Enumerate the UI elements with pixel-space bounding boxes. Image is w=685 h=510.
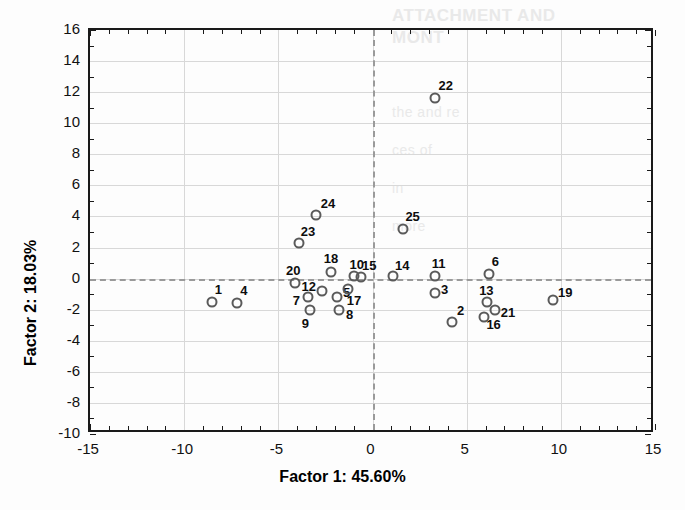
y-axis-label: Factor 2: 18.03% [22,240,40,366]
data-point-marker [397,223,408,234]
data-point-label: 23 [301,223,315,238]
x-axis-tick [90,424,91,430]
x-axis-tick-top [203,30,204,34]
gridline-horizontal [90,61,651,62]
y-axis-tick-right [647,294,651,295]
y-axis-tick [90,77,94,78]
x-axis-tick [486,426,487,430]
gridline-vertical [561,30,562,430]
data-point-label: 14 [395,257,409,272]
data-point-marker [326,267,337,278]
y-axis-tick [90,356,94,357]
gridline-vertical [467,30,468,430]
x-axis-tick-top [636,30,637,34]
x-axis-tick-top [580,30,581,34]
x-axis-tick [599,426,600,430]
plot-area: 1234567891011121314151617181920212223242… [88,28,653,432]
y-axis-tick [90,46,94,47]
data-point-label: 15 [362,258,376,273]
x-axis-tick-top [410,30,411,34]
x-axis-tick [410,426,411,430]
y-axis-tick-right [647,170,651,171]
gridline-horizontal [90,403,651,404]
x-axis-tick-top [260,30,261,34]
data-point-marker [489,304,500,315]
zero-line-vertical [373,30,375,430]
x-axis-tick-top [241,30,242,34]
y-axis-tick [90,201,94,202]
y-axis-tick-right [647,77,651,78]
data-point-marker [446,317,457,328]
x-axis-tick-top [316,30,317,34]
data-point-marker [290,278,301,289]
x-axis-tick-top [429,30,430,34]
data-point-label: 1 [215,281,222,296]
x-axis-tick [655,424,656,430]
gridline-horizontal [90,310,651,311]
gridline-horizontal [90,341,651,342]
zero-line-horizontal [90,279,651,281]
data-point-label: 11 [432,255,446,270]
gridline-horizontal [90,154,651,155]
x-axis-tick-top [222,30,223,34]
x-axis-tick-top [335,30,336,34]
y-tick-label: 8 [72,144,80,161]
x-axis-tick-top [448,30,449,34]
x-axis-tick [636,426,637,430]
data-point-label: 7 [293,293,300,308]
y-axis-tick [90,387,94,388]
data-point-label: 25 [405,208,419,223]
y-tick-label: 0 [72,268,80,285]
y-tick-label: 2 [72,237,80,254]
y-axis-tick [90,139,94,140]
x-axis-tick [203,426,204,430]
data-point-marker [305,304,316,315]
x-axis-label: Factor 1: 45.60% [0,468,685,486]
gridline-horizontal [90,123,651,124]
x-tick-label: -10 [171,440,193,457]
data-point-marker [311,209,322,220]
scatter-plot-figure: ATTACHMENT AND MONT the and re ces of in… [0,0,685,510]
y-tick-label: -4 [67,330,80,347]
x-axis-tick [391,426,392,430]
data-point-label: 17 [347,293,361,308]
y-tick-label: 10 [63,113,80,130]
x-tick-label: -15 [77,440,99,457]
data-point-marker [294,237,305,248]
y-tick-label: 4 [72,206,80,223]
y-tick-label: 14 [63,51,80,68]
x-tick-label: 15 [645,440,662,457]
gridline-horizontal [90,248,651,249]
y-axis-tick-right [647,387,651,388]
x-axis-tick [504,426,505,430]
x-axis-tick-top [599,30,600,34]
y-axis-tick-right [645,434,651,435]
y-tick-label: 16 [63,20,80,37]
x-axis-tick [297,426,298,430]
x-axis-tick-top [617,30,618,34]
x-tick-label: 0 [366,440,374,457]
gridline-horizontal [90,185,651,186]
y-axis-tick [90,108,94,109]
y-axis-tick [90,418,94,419]
x-tick-label: -5 [270,440,283,457]
gridline-vertical [184,30,185,430]
y-tick-label: -8 [67,392,80,409]
x-axis-tick-top [391,30,392,34]
x-axis-tick [109,426,110,430]
data-point-marker [231,298,242,309]
gridline-horizontal [90,216,651,217]
x-axis-tick [523,426,524,430]
x-axis-tick-top [109,30,110,34]
y-axis-tick [90,30,96,31]
x-axis-tick-top [147,30,148,34]
x-axis-tick-top [504,30,505,34]
data-point-label: 2 [457,303,464,318]
y-tick-label: -10 [58,424,80,441]
x-axis-tick [128,426,129,430]
data-point-label: 6 [492,253,499,268]
x-axis-tick [241,426,242,430]
x-tick-label: 5 [460,440,468,457]
x-axis-tick [542,426,543,430]
x-axis-tick [354,426,355,430]
